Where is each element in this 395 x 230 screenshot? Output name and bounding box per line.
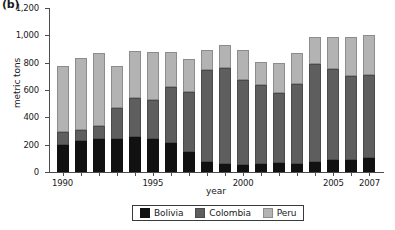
bar-2000: [237, 8, 249, 172]
bar-segment-bolivia: [273, 163, 285, 172]
x-tick: [369, 172, 370, 176]
bar-segment-bolivia: [255, 164, 267, 172]
y-tick: 1,200: [45, 8, 49, 9]
bar-segment-peru: [363, 35, 375, 75]
legend-swatch-colombia: [195, 208, 205, 218]
y-axis-line: [49, 8, 50, 173]
bar-segment-bolivia: [129, 137, 141, 172]
bar-segment-peru: [75, 58, 87, 130]
bar-2005: [327, 8, 339, 172]
bar-segment-colombia: [309, 64, 321, 162]
bar-segment-peru: [111, 66, 123, 108]
y-tick: 0: [45, 172, 49, 173]
bar-segment-colombia: [129, 98, 141, 137]
x-tick: [171, 172, 172, 176]
bar-segment-colombia: [165, 87, 177, 142]
bar-1990: [57, 8, 69, 172]
y-tick: 200: [45, 145, 49, 146]
x-tick: [279, 172, 280, 176]
legend-item-bolivia[interactable]: Bolivia: [140, 208, 183, 218]
bar-segment-colombia: [363, 75, 375, 158]
legend-swatch-bolivia: [140, 208, 150, 218]
bar-segment-colombia: [75, 130, 87, 142]
bar-segment-bolivia: [201, 162, 213, 172]
bar-segment-colombia: [255, 85, 267, 164]
legend-item-colombia[interactable]: Colombia: [195, 208, 251, 218]
x-tick: [315, 172, 316, 176]
bar-1999: [219, 8, 231, 172]
bar-1993: [111, 8, 123, 172]
x-tick: [297, 172, 298, 176]
bar-segment-peru: [255, 62, 267, 85]
bar-segment-bolivia: [219, 164, 231, 172]
x-tick: [243, 172, 244, 176]
y-tick: 1,000: [45, 35, 49, 36]
bar-2003: [291, 8, 303, 172]
bar-segment-bolivia: [165, 143, 177, 172]
y-tick-label: 400: [23, 112, 39, 122]
bar-segment-colombia: [183, 92, 195, 151]
bar-segment-peru: [237, 50, 249, 81]
x-tick: [333, 172, 334, 176]
bar-1991: [75, 8, 87, 172]
y-tick-label: 0: [34, 167, 39, 177]
chart-legend: BoliviaColombiaPeru: [132, 205, 304, 221]
legend-label-bolivia: Bolivia: [154, 208, 183, 218]
x-tick: [261, 172, 262, 176]
bar-2002: [273, 8, 285, 172]
bar-segment-bolivia: [291, 164, 303, 172]
bar-segment-peru: [273, 63, 285, 94]
bar-segment-bolivia: [147, 139, 159, 172]
y-tick: 600: [45, 90, 49, 91]
bar-segment-peru: [165, 52, 177, 88]
x-tick: [117, 172, 118, 176]
bar-segment-peru: [201, 50, 213, 70]
bar-segment-bolivia: [363, 158, 375, 172]
bar-2007: [363, 8, 375, 172]
bar-segment-peru: [345, 37, 357, 76]
bar-1992: [93, 8, 105, 172]
y-tick: 800: [45, 63, 49, 64]
bar-segment-bolivia: [327, 160, 339, 172]
x-tick: [135, 172, 136, 176]
x-tick: [189, 172, 190, 176]
bar-segment-colombia: [57, 132, 69, 145]
bar-segment-peru: [327, 37, 339, 68]
y-tick-label: 800: [23, 58, 39, 68]
x-tick: [351, 172, 352, 176]
bar-segment-bolivia: [75, 141, 87, 172]
bar-segment-colombia: [111, 108, 123, 139]
bar-segment-peru: [93, 53, 105, 125]
bar-segment-peru: [183, 59, 195, 92]
bar-segment-colombia: [273, 93, 285, 163]
x-tick: [81, 172, 82, 176]
x-tick: [207, 172, 208, 176]
bar-segment-colombia: [147, 100, 159, 140]
bar-segment-bolivia: [183, 152, 195, 173]
bar-2006: [345, 8, 357, 172]
x-axis-title: year: [49, 186, 383, 196]
y-tick-label: 1,000: [16, 30, 39, 40]
bar-segment-peru: [147, 52, 159, 100]
bar-segment-bolivia: [237, 165, 249, 172]
bar-segment-colombia: [219, 68, 231, 164]
legend-swatch-peru: [263, 208, 273, 218]
bar-segment-peru: [129, 51, 141, 98]
bar-segment-bolivia: [309, 162, 321, 172]
y-tick: 400: [45, 117, 49, 118]
legend-label-peru: Peru: [277, 208, 297, 218]
y-tick-label: 200: [23, 140, 39, 150]
bar-1994: [129, 8, 141, 172]
bar-1996: [165, 8, 177, 172]
x-tick: [63, 172, 64, 176]
x-tick: [99, 172, 100, 176]
legend-item-peru[interactable]: Peru: [263, 208, 297, 218]
bar-segment-peru: [291, 53, 303, 84]
bar-segment-colombia: [237, 80, 249, 165]
bar-segment-bolivia: [111, 139, 123, 172]
bar-segment-colombia: [291, 84, 303, 164]
legend-label-colombia: Colombia: [209, 208, 251, 218]
bar-segment-peru: [309, 37, 321, 64]
bar-2001: [255, 8, 267, 172]
x-tick: [153, 172, 154, 176]
